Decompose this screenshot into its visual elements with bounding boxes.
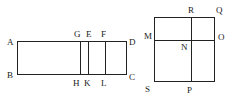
rectangle-abcd: A B G E F D H K L C: [7, 29, 136, 88]
label-s: S: [145, 84, 150, 94]
label-f: F: [101, 29, 106, 39]
rectangle-outline: [18, 42, 127, 75]
square-sq: R Q M O N S P: [144, 5, 225, 95]
geometry-diagram: A B G E F D H K L C R Q M O N S P: [0, 0, 234, 103]
label-l: L: [101, 78, 107, 88]
label-g: G: [74, 29, 81, 39]
label-c: C: [129, 72, 135, 82]
label-p: P: [187, 85, 192, 95]
label-r: R: [188, 5, 194, 15]
label-a: A: [7, 37, 14, 47]
label-h: H: [73, 78, 80, 88]
label-e: E: [86, 29, 92, 39]
label-m: M: [144, 31, 152, 41]
label-d: D: [129, 37, 136, 47]
label-k: K: [84, 78, 91, 88]
label-b: B: [7, 70, 13, 80]
label-n: N: [181, 42, 188, 52]
label-q: Q: [216, 5, 223, 15]
label-o: O: [218, 32, 225, 42]
